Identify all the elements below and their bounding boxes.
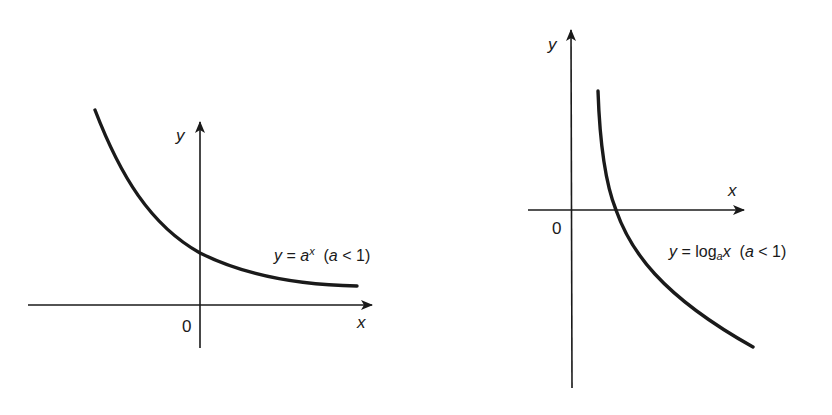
eq-arg: x xyxy=(723,243,731,260)
right-x-axis-label: x xyxy=(728,182,737,199)
eq-lhs: y xyxy=(669,243,677,260)
eq-cond-open: ( xyxy=(731,243,745,260)
figure: y x 0 y = ax (a < 1) y x 0 y = logax (a … xyxy=(0,0,832,415)
eq-cond-rest: < 1) xyxy=(338,247,370,264)
logarithmic-equation-label: y = logax (a < 1) xyxy=(669,244,786,262)
left-origin-label: 0 xyxy=(182,318,191,335)
left-x-axis-label: x xyxy=(357,314,366,331)
logarithmic-curve xyxy=(598,91,753,347)
right-origin-label: 0 xyxy=(552,220,561,237)
eq-lhs: y xyxy=(274,247,282,264)
right-y-axis xyxy=(571,30,572,388)
eq-cond-open: ( xyxy=(315,247,329,264)
left-graph xyxy=(28,110,372,348)
eq-equals: = log xyxy=(677,243,717,260)
right-y-axis-label: y xyxy=(548,36,557,53)
right-graph xyxy=(528,30,753,388)
eq-cond-rest: < 1) xyxy=(754,243,786,260)
eq-cond-var: a xyxy=(329,247,338,264)
eq-equals: = xyxy=(282,247,300,264)
diagram-canvas xyxy=(0,0,832,415)
exponential-equation-label: y = ax (a < 1) xyxy=(274,246,370,264)
eq-base: a xyxy=(300,247,309,264)
left-y-axis-label: y xyxy=(176,127,185,144)
eq-cond-var: a xyxy=(745,243,754,260)
